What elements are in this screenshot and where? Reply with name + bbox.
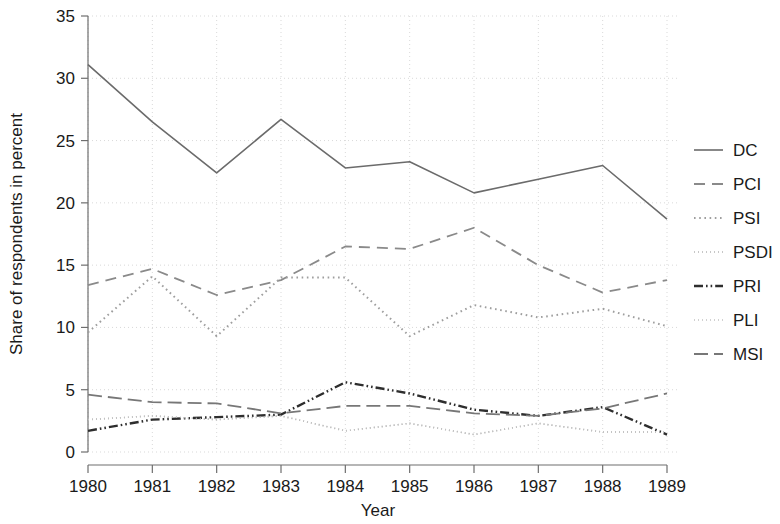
x-tick-label: 1986 <box>455 477 493 496</box>
x-tick-label: 1987 <box>519 477 557 496</box>
y-tick-label: 10 <box>56 318 75 337</box>
y-tick-label: 20 <box>56 194 75 213</box>
legend-label-dc: DC <box>733 141 758 160</box>
legend-label-psdi: PSDI <box>733 243 773 262</box>
legend-label-msi: MSI <box>733 345 763 364</box>
chart-legend: DCPCIPSIPSDIPRIPLIMSI <box>694 141 773 364</box>
y-axis-ticks: 05101520253035 <box>56 7 88 462</box>
y-tick-label: 35 <box>56 7 75 26</box>
x-tick-label: 1988 <box>584 477 622 496</box>
y-tick-label: 30 <box>56 69 75 88</box>
x-tick-label: 1981 <box>133 477 171 496</box>
y-axis-title: Share of respondents in percent <box>7 113 26 355</box>
x-axis-title: Year <box>361 501 396 520</box>
chart-canvas: Share of respondents in percent Year 051… <box>0 0 780 524</box>
axis-lines <box>88 16 667 465</box>
legend-label-pri: PRI <box>733 277 761 296</box>
x-tick-label: 1989 <box>648 477 686 496</box>
y-tick-label: 0 <box>66 443 75 462</box>
gridlines <box>88 16 679 452</box>
y-tick-label: 25 <box>56 132 75 151</box>
y-tick-label: 15 <box>56 256 75 275</box>
legend-label-psi: PSI <box>733 209 760 228</box>
x-tick-label: 1984 <box>326 477 364 496</box>
y-tick-label: 5 <box>66 381 75 400</box>
data-series-layer <box>88 65 667 435</box>
x-axis-ticks: 1980198119821983198419851986198719881989 <box>69 465 686 496</box>
x-tick-label: 1985 <box>391 477 429 496</box>
x-tick-label: 1982 <box>198 477 236 496</box>
series-line-msi <box>88 393 667 415</box>
series-line-pci <box>88 228 667 295</box>
legend-label-pci: PCI <box>733 175 761 194</box>
x-tick-label: 1983 <box>262 477 300 496</box>
line-chart: Share of respondents in percent Year 051… <box>0 0 780 524</box>
legend-label-pli: PLI <box>733 311 759 330</box>
x-tick-label: 1980 <box>69 477 107 496</box>
series-line-dc <box>88 65 667 219</box>
